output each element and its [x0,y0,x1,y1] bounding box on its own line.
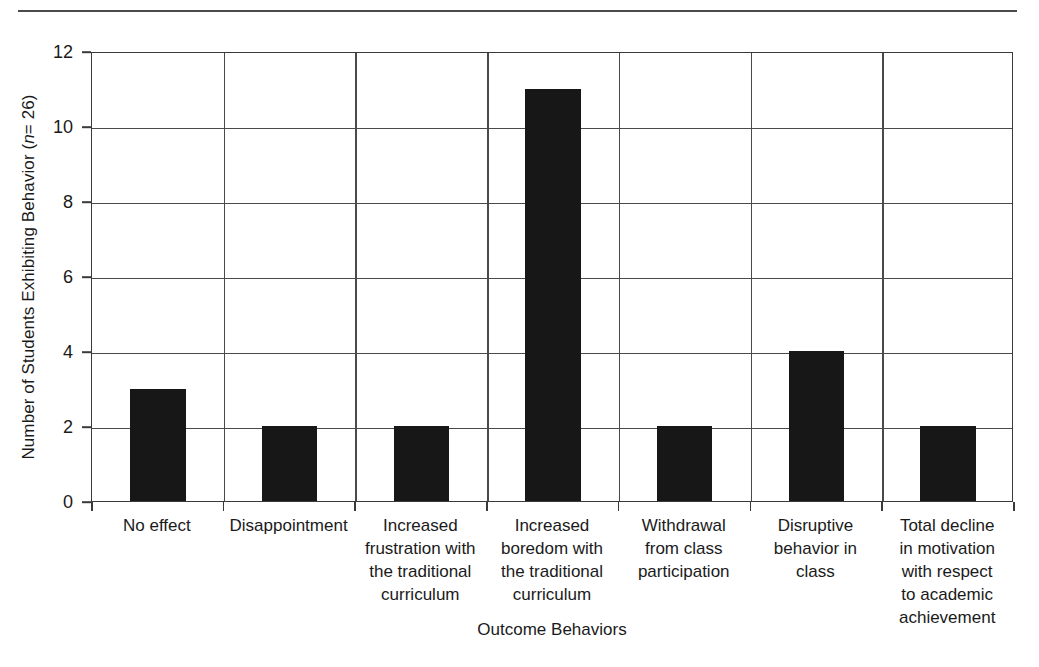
y-axis-tick-mark [82,501,91,503]
y-axis-tick-label: 8 [33,192,73,213]
x-axis-tick-mark [91,502,93,511]
y-axis-tick-label: 10 [33,117,73,138]
figure-container: Number of Students Exhibiting Behavior (… [0,0,1039,667]
y-axis-tick-mark [82,351,91,353]
y-axis-tick-label: 4 [33,342,73,363]
y-axis-tick-label: 2 [33,417,73,438]
gridline-vertical [355,53,356,501]
plot-area [91,52,1013,502]
x-axis-category-label: Disruptive behavior in class [750,514,882,624]
bar [920,426,975,501]
bar [789,351,844,501]
x-axis-tick-mark [750,502,752,511]
x-axis-category-label: Increased boredom with the traditional c… [486,514,618,624]
x-axis-category-label: Disappointment [223,514,355,624]
bar [657,426,712,501]
x-axis-category-label: No effect [91,514,223,624]
y-axis-tick-mark [82,51,91,53]
y-axis-tick-label: 12 [33,42,73,63]
gridline-vertical [224,53,225,501]
x-axis-tick-mark [223,502,225,511]
x-axis-tick-mark [1013,502,1015,511]
x-axis-title: Outcome Behaviors [91,620,1013,640]
bar [130,389,185,502]
x-axis-tick-mark [486,502,488,511]
x-axis-category-label: Increased frustration with the tradition… [354,514,486,624]
bar [525,89,580,502]
gridline-vertical [487,53,488,501]
y-axis-tick-mark [82,201,91,203]
y-axis-tick-label: 0 [33,492,73,513]
x-axis-category-label: Total decline in motivation with respect… [881,514,1013,624]
x-axis-tick-mark [354,502,356,511]
bar [262,426,317,501]
y-axis-tick-label: 6 [33,267,73,288]
x-axis-tick-mark [618,502,620,511]
x-axis-category-labels: No effectDisappointmentIncreased frustra… [91,514,1013,624]
y-axis-tick-mark [82,426,91,428]
gridline-vertical [619,53,620,501]
gridline-vertical [882,53,883,501]
y-axis-tick-mark [82,276,91,278]
x-axis-category-label: Withdrawal from class participation [618,514,750,624]
x-axis-tick-mark [881,502,883,511]
gridline-vertical [751,53,752,501]
y-axis-tick-mark [82,126,91,128]
bar [394,426,449,501]
top-divider-rule [18,10,1017,12]
